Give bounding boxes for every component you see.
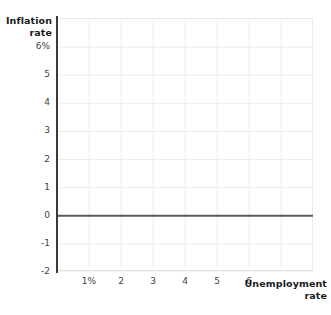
y-tick-label: 0 <box>2 210 50 220</box>
x-tick-label: 3 <box>138 276 168 286</box>
x-axis-title-line-1: Unemployment <box>221 278 327 290</box>
x-axis-title-line-2: rate <box>221 290 327 302</box>
x-tick-label: 1% <box>74 276 104 286</box>
y-tick-label: 5 <box>2 69 50 79</box>
y-axis-spine <box>56 16 58 273</box>
y-tick-label: 1 <box>2 182 50 192</box>
x-tick-label: 2 <box>106 276 136 286</box>
y-tick-label: 2 <box>2 154 50 164</box>
plot-area <box>57 18 313 271</box>
y-tick-label: -1 <box>2 238 50 248</box>
y-tick-label: -2 <box>2 266 50 276</box>
x-axis-title: Unemployment rate <box>221 278 327 301</box>
y-tick-label: 3 <box>2 125 50 135</box>
vertical-gridlines <box>89 19 313 272</box>
y-axis-title-line-1: Inflation <box>0 15 52 27</box>
x-tick-label: 4 <box>170 276 200 286</box>
y-tick-label: 4 <box>2 97 50 107</box>
y-tick-label: 6% <box>2 41 50 51</box>
y-axis-title: Inflation rate <box>0 15 52 38</box>
phillips-curve-chart: Inflation rate 6%543210-1-2 1%23456 Unem… <box>0 0 331 315</box>
grid-and-series-svg <box>57 19 313 272</box>
y-axis-title-line-2: rate <box>0 27 52 39</box>
